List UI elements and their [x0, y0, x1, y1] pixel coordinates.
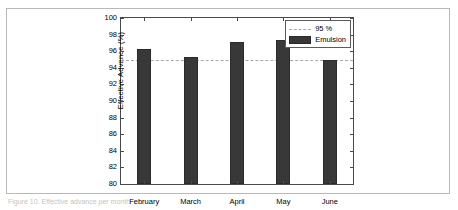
y-tick-label: 80 — [95, 180, 117, 188]
figure-frame: Effective Advance (%) 808284868890929496… — [6, 8, 450, 194]
legend-label-emulsion: Emulsion — [315, 35, 346, 44]
y-tick-label: 100 — [95, 14, 117, 22]
x-tick-mark — [283, 181, 284, 184]
y-tick-label: 86 — [95, 130, 117, 138]
x-tick-mark — [237, 18, 238, 21]
y-tick-mark — [121, 184, 124, 185]
bar — [276, 40, 290, 184]
x-tick-mark — [330, 181, 331, 184]
y-tick-label: 90 — [95, 97, 117, 105]
bar-patch-icon — [289, 36, 311, 44]
y-tick-label: 88 — [95, 114, 117, 122]
y-tick-label: 82 — [95, 164, 117, 172]
bar — [323, 60, 337, 184]
chart-legend: 95 % Emulsion — [285, 20, 351, 48]
y-tick-label: 92 — [95, 81, 117, 89]
y-tick-label: 94 — [95, 64, 117, 72]
legend-item-emulsion: Emulsion — [289, 34, 346, 45]
x-tick-mark — [191, 18, 192, 21]
bar — [230, 42, 244, 184]
legend-item-reference: 95 % — [289, 23, 346, 34]
bar — [184, 57, 198, 184]
y-tick-label: 98 — [95, 31, 117, 39]
chart-plot-area: Effective Advance (%) 808284868890929496… — [120, 17, 354, 185]
legend-label-reference: 95 % — [315, 24, 332, 33]
x-tick-mark — [191, 181, 192, 184]
x-tick-mark — [144, 18, 145, 21]
figure-caption: Figure 10. Effective advance per month — [8, 198, 338, 206]
x-tick-mark — [237, 181, 238, 184]
bar — [137, 49, 151, 184]
y-tick-mark — [350, 184, 353, 185]
x-tick-mark — [144, 181, 145, 184]
y-tick-label: 84 — [95, 147, 117, 155]
y-tick-label: 96 — [95, 47, 117, 55]
dashed-line-icon — [289, 24, 311, 33]
